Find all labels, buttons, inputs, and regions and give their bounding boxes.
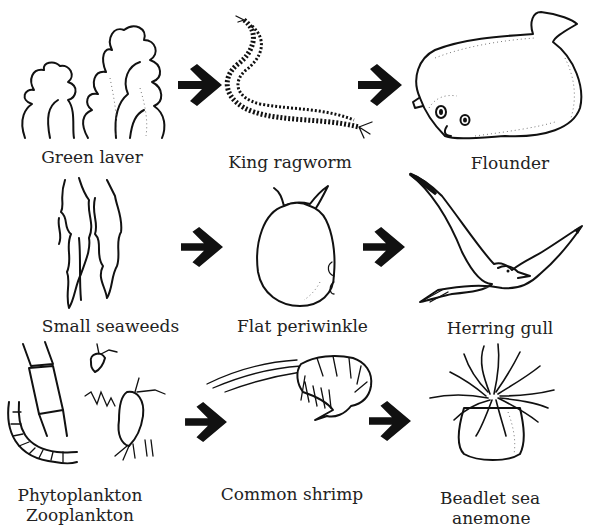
label-flounder: Flounder bbox=[450, 153, 570, 173]
arrow-periwinkle-to-gull bbox=[363, 226, 405, 272]
label-beadlet-anemone-line2: anemone bbox=[452, 508, 552, 527]
plankton-illustration bbox=[5, 340, 175, 475]
label-beadlet-anemone-line1: Beadlet sea bbox=[440, 488, 565, 508]
small-seaweeds-illustration bbox=[55, 178, 135, 313]
label-green-laver: Green laver bbox=[22, 147, 162, 167]
flatfish-icon bbox=[405, 8, 590, 148]
arrow-shrimp-to-anemone bbox=[369, 400, 411, 446]
shrimp-icon bbox=[205, 352, 380, 432]
king-ragworm-illustration bbox=[214, 12, 379, 142]
worm-icon bbox=[214, 12, 379, 142]
snail-icon bbox=[250, 182, 340, 312]
label-herring-gull: Herring gull bbox=[430, 318, 570, 338]
label-flat-periwinkle: Flat periwinkle bbox=[225, 316, 380, 336]
common-shrimp-illustration bbox=[205, 352, 380, 432]
label-common-shrimp: Common shrimp bbox=[212, 484, 372, 504]
label-zooplankton: Zooplankton bbox=[10, 505, 150, 525]
label-king-ragworm: King ragworm bbox=[215, 152, 365, 172]
arrow-right-icon bbox=[369, 400, 411, 442]
arrow-right-icon bbox=[181, 226, 223, 268]
flat-periwinkle-illustration bbox=[250, 182, 340, 312]
label-small-seaweeds: Small seaweeds bbox=[18, 316, 203, 336]
gull-icon bbox=[402, 172, 587, 312]
flounder-illustration bbox=[405, 8, 590, 148]
seaweed-leafy-icon bbox=[10, 18, 180, 143]
beadlet-anemone-illustration bbox=[428, 338, 563, 463]
arrow-seaweeds-to-periwinkle bbox=[181, 226, 223, 272]
anemone-icon bbox=[428, 338, 563, 463]
arrow-right-icon bbox=[363, 226, 405, 268]
green-laver-illustration bbox=[10, 18, 180, 143]
arrow-ragworm-to-flounder bbox=[358, 64, 402, 110]
label-phytoplankton: Phytoplankton bbox=[10, 485, 150, 505]
plankton-icon bbox=[5, 340, 175, 475]
herring-gull-illustration bbox=[402, 172, 587, 312]
arrow-right-icon bbox=[358, 64, 402, 106]
seaweed-fronds-icon bbox=[55, 178, 135, 313]
